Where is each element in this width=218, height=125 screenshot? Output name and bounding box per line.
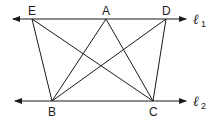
line-label-l2: ℓ <box>193 93 199 109</box>
line-subscript-l2: 2 <box>201 101 206 111</box>
point-label-e: E <box>28 4 36 18</box>
point-label-b: B <box>48 105 56 119</box>
point-label-d: D <box>162 4 171 18</box>
segment-ab <box>52 19 106 101</box>
line-label-l1: ℓ <box>193 11 199 27</box>
line-subscript-l1: 1 <box>201 19 206 29</box>
segment-eb <box>32 19 52 101</box>
point-label-c: C <box>149 105 158 119</box>
segment-db <box>52 19 166 101</box>
segment-ec <box>32 19 153 101</box>
segment-dc <box>153 19 166 101</box>
segment-ac <box>106 19 153 101</box>
geometry-diagram: E A D B C ℓ 1 ℓ 2 <box>0 0 218 125</box>
point-label-a: A <box>102 4 110 18</box>
